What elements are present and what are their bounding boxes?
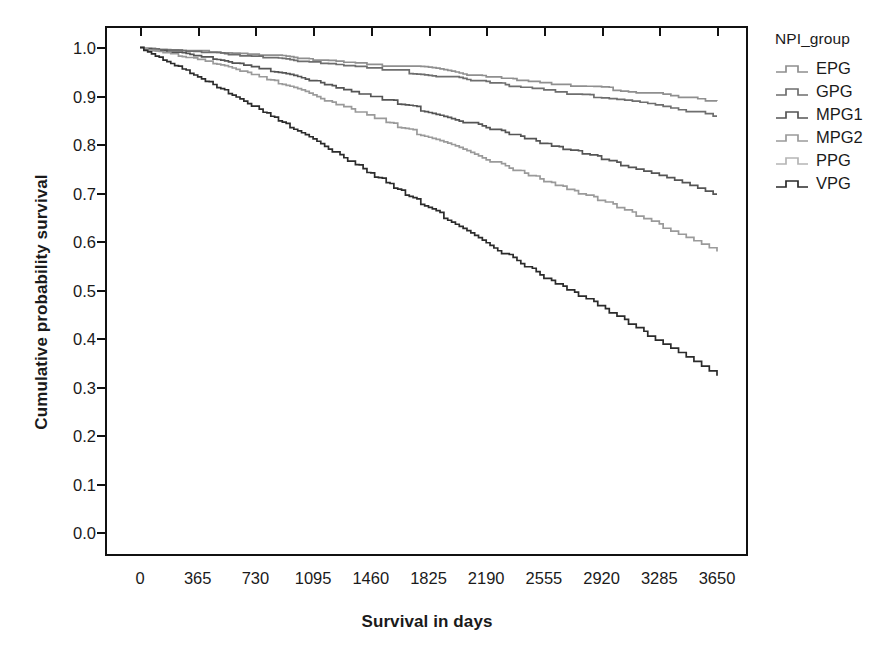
- legend-swatch-icon: [775, 177, 809, 191]
- x-tick-label: 3650: [699, 569, 736, 588]
- legend-label: GPG: [816, 82, 853, 101]
- y-tick-mark: [97, 435, 105, 437]
- y-tick-mark: [97, 96, 105, 98]
- survival-curves: [105, 26, 748, 556]
- x-tick-mark: [198, 27, 200, 36]
- y-tick-mark: [97, 290, 105, 292]
- y-tick-label: 0.6: [73, 233, 96, 252]
- chart-figure: Cumulative probability survival Survival…: [0, 0, 878, 647]
- x-tick-label: 1825: [410, 569, 447, 588]
- x-tick-mark: [313, 27, 315, 36]
- x-tick-mark: [602, 27, 604, 36]
- y-tick-label: 0.7: [73, 184, 96, 203]
- legend-title: NPI_group: [775, 30, 878, 48]
- x-tick-mark: [486, 27, 488, 36]
- x-tick-mark: [255, 27, 257, 36]
- survival-curve-vpg: [140, 48, 717, 376]
- y-tick-mark: [97, 47, 105, 49]
- legend-item-mpg1[interactable]: MPG1: [775, 103, 878, 126]
- legend-label: VPG: [816, 174, 851, 193]
- survival-curve-mpg2: [140, 48, 717, 252]
- legend-item-gpg[interactable]: GPG: [775, 80, 878, 103]
- legend-swatch-icon: [775, 131, 809, 145]
- legend-items: EPGGPGMPG1MPG2PPGVPG: [775, 57, 878, 195]
- y-tick-label: 0.1: [73, 475, 96, 494]
- x-tick-label: 0: [135, 569, 144, 588]
- x-tick-label: 1460: [352, 569, 389, 588]
- y-tick-label: 0.0: [73, 524, 96, 543]
- x-tick-mark: [371, 27, 373, 36]
- legend-swatch-icon: [775, 108, 809, 122]
- y-tick-label: 0.8: [73, 136, 96, 155]
- x-tick-mark: [659, 27, 661, 36]
- x-tick-mark: [429, 27, 431, 36]
- y-tick-label: 0.4: [73, 330, 96, 349]
- legend-item-epg[interactable]: EPG: [775, 57, 878, 80]
- legend-label: MPG1: [816, 105, 863, 124]
- legend-item-ppg[interactable]: PPG: [775, 149, 878, 172]
- y-tick-label: 0.2: [73, 427, 96, 446]
- y-tick-mark: [97, 338, 105, 340]
- y-tick-mark: [97, 193, 105, 195]
- legend-item-vpg[interactable]: VPG: [775, 172, 878, 195]
- x-tick-mark: [544, 27, 546, 36]
- plot-area: 0.00.10.20.30.40.50.60.70.80.91.0 036573…: [105, 26, 748, 556]
- legend-label: MPG2: [816, 128, 863, 147]
- legend-swatch-icon: [775, 154, 809, 168]
- legend: NPI_group EPGGPGMPG1MPG2PPGVPG: [775, 30, 878, 195]
- x-tick-label: 2920: [583, 569, 620, 588]
- y-tick-mark: [97, 387, 105, 389]
- survival-curve-gpg: [140, 48, 717, 117]
- legend-swatch-icon: [775, 62, 809, 76]
- y-tick-mark: [97, 144, 105, 146]
- legend-item-mpg2[interactable]: MPG2: [775, 126, 878, 149]
- y-tick-label: 1.0: [73, 39, 96, 58]
- y-tick-mark: [97, 532, 105, 534]
- x-tick-label: 365: [184, 569, 212, 588]
- y-tick-label: 0.9: [73, 87, 96, 106]
- y-axis-title: Cumulative probability survival: [32, 72, 52, 532]
- y-tick-label: 0.5: [73, 281, 96, 300]
- legend-label: PPG: [816, 151, 851, 170]
- x-tick-label: 1095: [295, 569, 332, 588]
- x-tick-label: 3285: [641, 569, 678, 588]
- x-axis-title: Survival in days: [105, 612, 749, 632]
- y-tick-mark: [97, 241, 105, 243]
- legend-swatch-icon: [775, 85, 809, 99]
- y-tick-mark: [97, 484, 105, 486]
- survival-curve-mpg1: [140, 48, 717, 195]
- legend-label: EPG: [816, 59, 851, 78]
- y-tick-label: 0.3: [73, 378, 96, 397]
- x-tick-mark: [717, 27, 719, 36]
- x-tick-label: 2555: [526, 569, 563, 588]
- x-tick-mark: [140, 27, 142, 36]
- x-tick-label: 2190: [468, 569, 505, 588]
- x-tick-label: 730: [242, 569, 270, 588]
